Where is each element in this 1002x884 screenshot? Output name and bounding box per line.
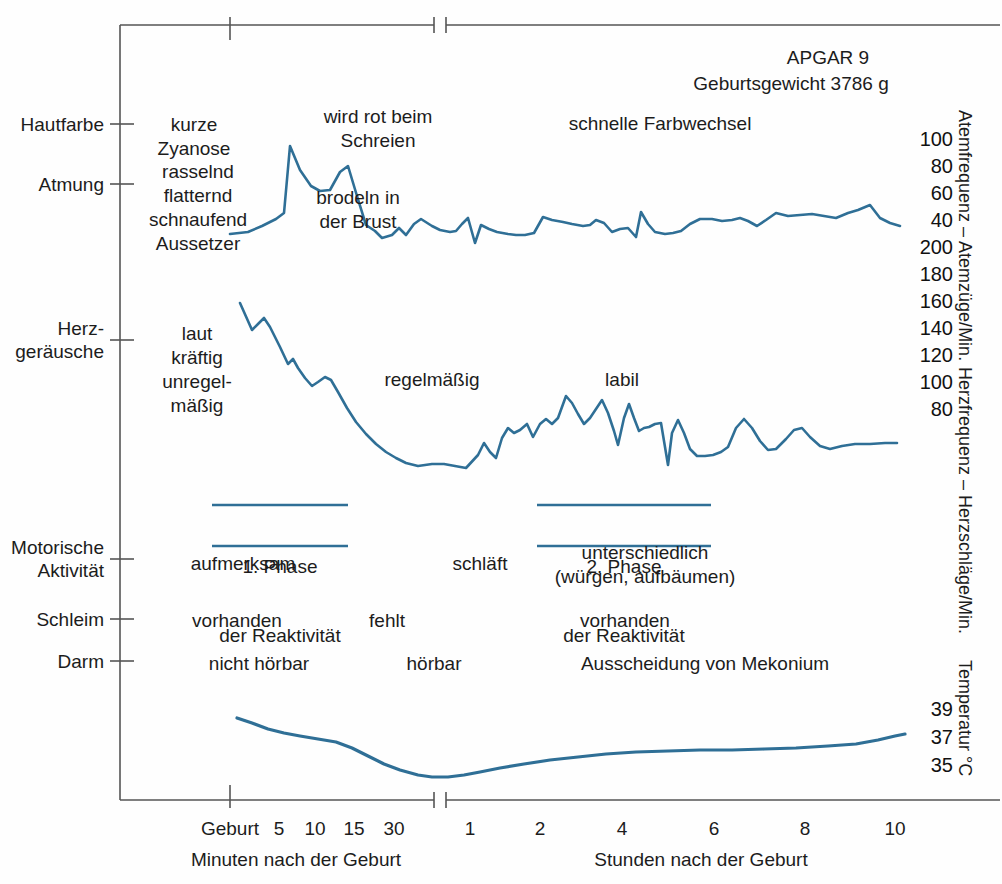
annotation-brodeln-in-der-brust: brodeln in der Brust bbox=[316, 186, 399, 234]
category-label-hautfarbe: Hautfarbe bbox=[0, 113, 104, 136]
x-axis-caption-minutes: Minuten nach der Geburt bbox=[191, 848, 401, 872]
temp-tick-37: 37 bbox=[905, 726, 953, 748]
chart-canvas bbox=[0, 0, 1002, 884]
category-label-herzgeraeusche: Herz- geräusche bbox=[0, 317, 104, 363]
hr-tick-180: 180 bbox=[905, 263, 953, 285]
resp-tick-80: 80 bbox=[905, 155, 953, 177]
chart-page: APGAR 9 Geburtsgewicht 3786 g Hautfarbe … bbox=[0, 0, 1002, 884]
hr-tick-200: 200 bbox=[905, 236, 953, 258]
xtick-5: 5 bbox=[274, 817, 285, 841]
annotation-herzgeraeusche-qualitaeten: laut kräftig unregel- mäßig bbox=[162, 322, 232, 418]
temp-tick-35: 35 bbox=[905, 754, 953, 776]
phase-2-caption: 2. Phase der Reaktivität bbox=[537, 509, 711, 693]
temp-tick-39: 39 bbox=[905, 698, 953, 720]
heart-rate-axis-title: Herzfrequenz – Herzschläge/Min. bbox=[954, 367, 975, 634]
resp-tick-40: 40 bbox=[905, 209, 953, 231]
xtick-10: 10 bbox=[304, 817, 325, 841]
xtick-15: 15 bbox=[343, 817, 364, 841]
xtick-8h: 8 bbox=[800, 817, 811, 841]
annotation-atmung-qualitaeten: rasselnd flatternd schnaufend Aussetzer bbox=[149, 160, 247, 256]
heart-rate-curve bbox=[240, 303, 897, 468]
category-label-atmung: Atmung bbox=[0, 173, 104, 196]
temperature-curve bbox=[237, 718, 905, 777]
xtick-geburt: Geburt bbox=[201, 817, 259, 841]
annotation-regelmaessig: regelmäßig bbox=[384, 368, 479, 392]
xtick-10h: 10 bbox=[884, 817, 905, 841]
hr-tick-160: 160 bbox=[905, 290, 953, 312]
annotation-schlaeft: schläft bbox=[453, 552, 508, 576]
phase-2-line-2: der Reaktivität bbox=[537, 624, 711, 647]
temperature-axis-title: Temperatur °C bbox=[954, 660, 975, 776]
annotation-kurze-zyanose: kurze Zyanose bbox=[158, 113, 231, 161]
annotation-labil: labil bbox=[605, 368, 639, 392]
xtick-30: 30 bbox=[383, 817, 404, 841]
resp-tick-100: 100 bbox=[905, 128, 953, 150]
annotation-darm-hoerbar: hörbar bbox=[407, 652, 462, 676]
hr-tick-140: 140 bbox=[905, 317, 953, 339]
hr-tick-100: 100 bbox=[905, 371, 953, 393]
phase-2-line-1: 2. Phase bbox=[537, 555, 711, 578]
annotation-wird-rot-beim-schreien: wird rot beim Schreien bbox=[324, 105, 433, 153]
hr-tick-120: 120 bbox=[905, 344, 953, 366]
apgar-score: APGAR 9 bbox=[787, 46, 869, 70]
category-label-darm: Darm bbox=[0, 650, 104, 673]
birth-weight: Geburtsgewicht 3786 g bbox=[693, 72, 888, 96]
phase-1-line-2: der Reaktivität bbox=[212, 624, 348, 647]
xtick-2h: 2 bbox=[535, 817, 546, 841]
left-category-ticks bbox=[110, 124, 134, 661]
x-axis-caption-hours: Stunden nach der Geburt bbox=[594, 848, 807, 872]
category-label-schleim: Schleim bbox=[0, 608, 104, 631]
xtick-4h: 4 bbox=[617, 817, 628, 841]
annotation-schnelle-farbwechsel: schnelle Farbwechsel bbox=[569, 112, 752, 136]
respiration-axis-title: Atemfrequenz – Atemzüge/Min. bbox=[954, 110, 975, 361]
category-label-motorische-aktivitaet: Motorische Aktivität bbox=[0, 536, 104, 582]
resp-tick-60: 60 bbox=[905, 182, 953, 204]
hr-tick-80: 80 bbox=[905, 398, 953, 420]
annotation-schleim-fehlt: fehlt bbox=[369, 609, 405, 633]
xtick-6h: 6 bbox=[709, 817, 720, 841]
phase-1-caption: 1. Phase der Reaktivität bbox=[212, 509, 348, 693]
phase-1-line-1: 1. Phase bbox=[212, 555, 348, 578]
xtick-1h: 1 bbox=[465, 817, 476, 841]
